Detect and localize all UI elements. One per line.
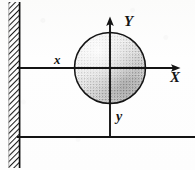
axis-label-Y: Y <box>124 14 133 29</box>
figure-canvas: Y X x y <box>0 0 195 170</box>
axis-label-X: X <box>170 70 180 85</box>
hatched-wall <box>9 2 21 168</box>
diagram-artwork <box>0 0 195 170</box>
axis-label-x-lower: x <box>54 53 61 66</box>
axis-label-y-lower: y <box>116 110 122 124</box>
